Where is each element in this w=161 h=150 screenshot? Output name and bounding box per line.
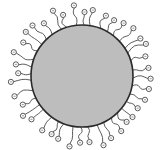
ligand-chain	[18, 64, 31, 67]
ligand-chain	[17, 90, 33, 96]
ligand-chain	[130, 94, 143, 99]
ligand-chain	[53, 121, 59, 132]
ligand-chain	[73, 8, 77, 25]
ligand-chain	[107, 22, 112, 31]
ligand-chain	[126, 102, 135, 107]
ligand-chain	[25, 105, 40, 115]
ligand-chain	[113, 25, 122, 36]
ligand-chain	[88, 127, 90, 140]
particle-diagram	[0, 0, 161, 150]
ligand-chain	[97, 125, 103, 143]
ligand-chain	[79, 127, 83, 140]
particle-core	[31, 25, 133, 127]
ligand-chain	[122, 108, 131, 115]
ligand-chain	[119, 30, 131, 41]
ligand-chain	[89, 13, 92, 26]
ligand-chain	[104, 122, 110, 136]
ligand-chain	[70, 126, 73, 144]
ligand-chain	[14, 79, 32, 81]
ligand-chain	[125, 40, 138, 49]
ligand-chain	[25, 98, 36, 104]
ligand-chain	[28, 34, 42, 45]
ligand-chain	[34, 109, 44, 117]
ligand-chain	[133, 68, 146, 71]
ligand-chain	[83, 15, 84, 25]
ligand-chain	[133, 76, 148, 79]
ligand-chain	[59, 124, 64, 137]
ligand-chain	[26, 43, 38, 50]
ligand-chain	[21, 73, 31, 75]
ligand-chain	[16, 53, 34, 60]
ligand-chain	[132, 85, 146, 90]
ligand-chain	[118, 113, 125, 121]
ligand-chain	[128, 45, 144, 53]
ligand-chain	[34, 27, 46, 39]
ligand-chain	[62, 17, 67, 27]
ligand-chain	[44, 117, 52, 128]
ligand-chain	[131, 57, 143, 61]
ligand-chain	[45, 26, 52, 35]
ligand-chain	[100, 18, 105, 29]
